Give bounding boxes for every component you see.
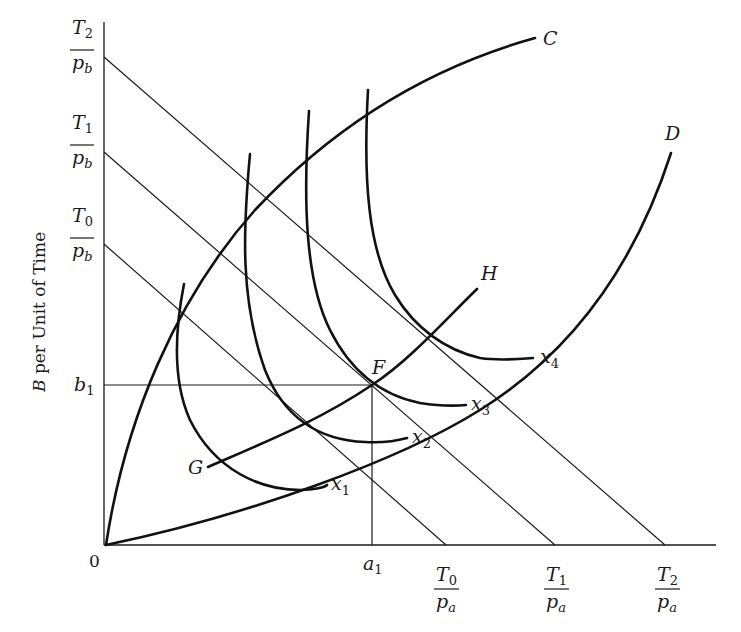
isoquant-x2 bbox=[245, 154, 407, 442]
svg-text:T1: T1 bbox=[546, 563, 567, 588]
x-tick-t1-pa: T1 pa bbox=[544, 563, 569, 615]
y-tick-t0-pb: T0 pb bbox=[70, 204, 94, 264]
svg-text:T2: T2 bbox=[657, 563, 678, 588]
svg-text:pa: pa bbox=[436, 590, 456, 615]
isoquant-x1-label: x1 bbox=[331, 472, 350, 498]
x-tick-t0-pa: T0 pa bbox=[434, 563, 459, 615]
isoquant-x3 bbox=[306, 111, 466, 406]
production-diagram: B per Unit of Time T2 pb T1 pb T0 pb b1 … bbox=[0, 0, 741, 632]
svg-text:pb: pb bbox=[72, 146, 93, 171]
y-tick-t2-pb: T2 pb bbox=[70, 16, 94, 76]
g-label: G bbox=[188, 456, 203, 478]
svg-text:T1: T1 bbox=[72, 111, 93, 136]
origin-label: 0 bbox=[89, 551, 100, 571]
svg-text:pb: pb bbox=[72, 51, 93, 76]
a1-label: a1 bbox=[363, 552, 383, 577]
svg-text:pa: pa bbox=[546, 590, 566, 615]
x-tick-t2-pa: T2 pa bbox=[655, 563, 680, 615]
y-tick-t1-pb: T1 pb bbox=[70, 111, 94, 171]
curve-d-label: D bbox=[664, 122, 680, 144]
h-label: H bbox=[480, 262, 498, 284]
svg-text:T0: T0 bbox=[72, 204, 93, 229]
y-axis-label: B per Unit of Time bbox=[29, 232, 49, 393]
svg-text:T0: T0 bbox=[436, 563, 457, 588]
isoquant-x2-label: x2 bbox=[412, 425, 431, 451]
f-point-label: F bbox=[371, 356, 386, 378]
svg-text:pb: pb bbox=[72, 239, 93, 264]
isoquant-x4 bbox=[366, 90, 533, 360]
curve-c-label: C bbox=[543, 27, 558, 49]
curve-d bbox=[106, 153, 671, 545]
budget-line-t1 bbox=[104, 152, 555, 545]
svg-text:pa: pa bbox=[657, 590, 677, 615]
b1-label: b1 bbox=[74, 373, 94, 398]
svg-text:T2: T2 bbox=[72, 16, 93, 41]
